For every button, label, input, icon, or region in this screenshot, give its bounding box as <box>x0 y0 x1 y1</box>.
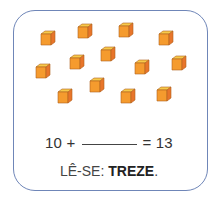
cube-icon <box>134 59 150 75</box>
equation-right: = 13 <box>143 134 173 151</box>
cube-icon <box>89 77 105 93</box>
cube-icon <box>156 86 172 102</box>
cube-icon <box>40 30 56 46</box>
cube-icon <box>171 55 187 71</box>
cube-icon <box>118 22 134 38</box>
equation: 10 += 13 <box>0 134 218 151</box>
cube-icon <box>77 23 93 39</box>
reading-line: LÊ-SE: TREZE. <box>0 163 218 179</box>
cube-icon <box>158 30 174 46</box>
reading-word: TREZE <box>108 163 154 179</box>
reading-prefix: LÊ-SE: <box>60 163 104 179</box>
cube-icon <box>100 46 116 62</box>
cube-icon <box>57 88 73 104</box>
reading-suffix: . <box>154 163 158 179</box>
cube-icon <box>69 54 85 70</box>
cube-icon <box>120 88 136 104</box>
cube-icon <box>35 63 51 79</box>
answer-blank[interactable] <box>82 144 137 145</box>
equation-left: 10 + <box>45 134 75 151</box>
